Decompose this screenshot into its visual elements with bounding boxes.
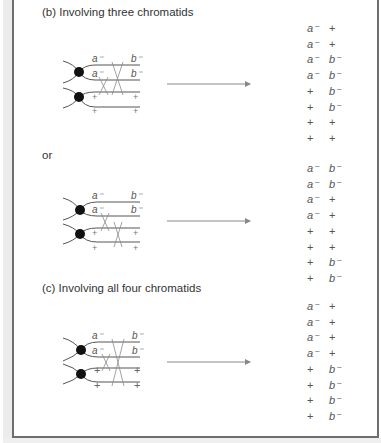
allele-a: + (307, 363, 313, 375)
allele-b: + (329, 132, 335, 144)
allele-b: b⁻ (329, 410, 341, 423)
allele-a: + (307, 132, 313, 144)
allele-a: + (307, 272, 313, 284)
allele-a: a⁻ (307, 300, 319, 313)
centromere-icon (75, 205, 85, 215)
result-row: a⁻+ (300, 300, 360, 315)
allele-b: b⁻ (329, 162, 341, 175)
allele-label: b⁻ (132, 345, 143, 356)
allele-label: + (134, 379, 140, 391)
allele-label: + (133, 228, 138, 238)
allele-b: + (329, 209, 335, 221)
result-row: +b⁻ (300, 101, 360, 116)
allele-label: a⁻ (92, 345, 103, 356)
allele-label: + (133, 106, 138, 116)
allele-a: + (307, 85, 313, 97)
allele-a: a⁻ (307, 69, 319, 82)
allele-a: + (307, 379, 313, 391)
result-row: ++ (300, 116, 360, 131)
result-row: +b⁻ (300, 394, 360, 409)
allele-label: a⁻ (92, 204, 103, 215)
allele-b: b⁻ (329, 379, 341, 392)
result-row: +b⁻ (300, 410, 360, 425)
allele-label: + (92, 92, 97, 102)
result-row: +b⁻ (300, 272, 360, 287)
allele-a: + (307, 394, 313, 406)
allele-label: b⁻ (132, 330, 143, 341)
centromere-icon (74, 92, 84, 102)
allele-label: b⁻ (131, 204, 142, 215)
allele-b: b⁻ (329, 394, 341, 407)
centromere-icon (75, 229, 85, 239)
allele-b: + (329, 331, 335, 343)
allele-b: + (329, 300, 335, 312)
allele-b: + (329, 116, 335, 128)
result-row: +b⁻ (300, 256, 360, 271)
allele-b: b⁻ (329, 101, 341, 114)
allele-label: + (92, 228, 97, 238)
allele-a: a⁻ (307, 22, 319, 35)
allele-a: a⁻ (307, 38, 319, 51)
allele-b: + (329, 38, 335, 50)
allele-b: + (329, 347, 335, 359)
allele-a: + (307, 101, 313, 113)
centromere-icon (74, 67, 84, 77)
result-row: a⁻b⁻ (300, 178, 360, 193)
allele-a: + (307, 116, 313, 128)
result-row: a⁻+ (300, 316, 360, 331)
allele-b: + (329, 193, 335, 205)
allele-a: a⁻ (307, 162, 319, 175)
allele-b: + (329, 316, 335, 328)
allele-a: + (307, 256, 313, 268)
allele-label: + (133, 92, 138, 102)
result-row: a⁻+ (300, 347, 360, 362)
centromere-icon (76, 345, 86, 355)
result-row: ++ (300, 241, 360, 256)
centromere-icon (76, 369, 86, 379)
result-row: +b⁻ (300, 85, 360, 100)
allele-label: b⁻ (131, 190, 142, 201)
allele-b: b⁻ (329, 272, 341, 285)
allele-label: b⁻ (131, 53, 142, 64)
allele-a: a⁻ (307, 209, 319, 222)
allele-label: a⁻ (92, 53, 103, 64)
result-row: a⁻+ (300, 209, 360, 224)
allele-b: b⁻ (329, 178, 341, 191)
allele-b: + (329, 22, 335, 34)
allele-b: + (329, 241, 335, 253)
allele-a: + (307, 241, 313, 253)
result-row: ++ (300, 132, 360, 147)
allele-b: + (329, 225, 335, 237)
allele-a: a⁻ (307, 316, 319, 329)
allele-label: + (92, 243, 97, 253)
allele-b: b⁻ (329, 256, 341, 269)
result-row: ++ (300, 225, 360, 240)
allele-label: a⁻ (92, 68, 103, 79)
result-row: a⁻b⁻ (300, 69, 360, 84)
allele-b: b⁻ (329, 363, 341, 376)
result-row: a⁻+ (300, 193, 360, 208)
result-row: a⁻+ (300, 22, 360, 37)
allele-a: + (307, 225, 313, 237)
allele-a: a⁻ (307, 193, 319, 206)
allele-label: b⁻ (131, 68, 142, 79)
result-row: a⁻b⁻ (300, 53, 360, 68)
allele-b: b⁻ (329, 53, 341, 66)
allele-a: a⁻ (307, 347, 319, 360)
result-row: a⁻b⁻ (300, 162, 360, 177)
allele-label: + (92, 106, 97, 116)
allele-a: a⁻ (307, 178, 319, 191)
result-row: +b⁻ (300, 379, 360, 394)
allele-label: + (94, 364, 100, 376)
allele-label: a⁻ (92, 190, 103, 201)
allele-b: b⁻ (329, 69, 341, 82)
allele-a: a⁻ (307, 331, 319, 344)
allele-b: b⁻ (329, 85, 341, 98)
result-row: +b⁻ (300, 363, 360, 378)
result-row: a⁻+ (300, 331, 360, 346)
allele-a: + (307, 410, 313, 422)
allele-label: + (133, 243, 138, 253)
allele-label: a⁻ (92, 330, 103, 341)
allele-a: a⁻ (307, 53, 319, 66)
allele-label: + (94, 379, 100, 391)
